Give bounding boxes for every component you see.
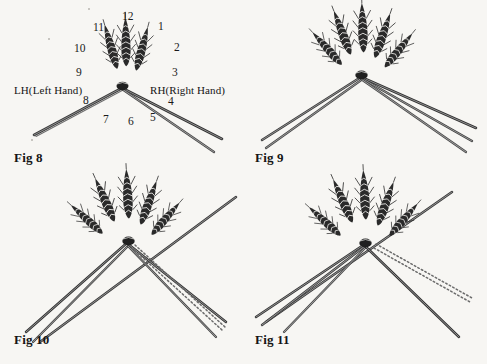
fig10-left-straw-group bbox=[26, 242, 130, 342]
fig8-number-11: 11 bbox=[93, 21, 104, 33]
fig8-number-12: 12 bbox=[122, 10, 134, 22]
fig9-binding-knot bbox=[355, 71, 367, 80]
fig8-number-2: 2 bbox=[174, 41, 180, 53]
fig10-right-straw-group bbox=[128, 244, 226, 337]
fig8-caption: Fig 8 bbox=[14, 150, 43, 166]
fig10-caption: Fig 10 bbox=[14, 332, 50, 348]
fig8-number-8: 8 bbox=[83, 94, 89, 106]
fig8-number-6: 6 bbox=[128, 115, 134, 127]
fig8-number-1: 1 bbox=[158, 20, 164, 32]
fig8-number-5: 5 bbox=[150, 111, 156, 123]
page-speck bbox=[48, 38, 50, 40]
fig8-right-hand-label: RH(Right Hand) bbox=[150, 84, 225, 96]
fig10-through-straw bbox=[40, 197, 236, 342]
fig9-caption: Fig 9 bbox=[255, 150, 284, 166]
fig11-ear-1 bbox=[300, 198, 346, 242]
fig8-number-10: 10 bbox=[74, 42, 86, 54]
figure-panel-fig8: 12 11 10 9 8 7 6 5 4 3 2 1 LH(Left Hand)… bbox=[0, 0, 244, 182]
fig8-number-3: 3 bbox=[172, 66, 178, 78]
fig11-right-straw-group bbox=[365, 246, 459, 337]
figure-panel-fig10: Fig 10 bbox=[0, 182, 244, 364]
fig8-number-9: 9 bbox=[76, 66, 82, 78]
fig9-ear-3 bbox=[352, 0, 373, 53]
fig8-number-7: 7 bbox=[103, 113, 109, 125]
fig11-caption: Fig 11 bbox=[255, 332, 290, 348]
illustration-plate: 12 11 10 9 8 7 6 5 4 3 2 1 LH(Left Hand)… bbox=[0, 0, 487, 364]
page-speck bbox=[31, 139, 33, 141]
fig8-number-4: 4 bbox=[168, 95, 174, 107]
fig10-binding-knot bbox=[122, 237, 134, 246]
fig11-binding-knot bbox=[359, 239, 371, 248]
fig9-right-straw-group bbox=[361, 77, 476, 152]
figure-panel-fig11: Fig 11 bbox=[244, 182, 487, 364]
page-speck bbox=[88, 8, 90, 10]
fig11-dotted-straw bbox=[374, 244, 472, 302]
figure-panel-fig9: Fig 9 bbox=[244, 0, 487, 182]
fig8-left-hand-label: LH(Left Hand) bbox=[14, 84, 82, 96]
fig9-left-straw-group bbox=[262, 77, 362, 148]
